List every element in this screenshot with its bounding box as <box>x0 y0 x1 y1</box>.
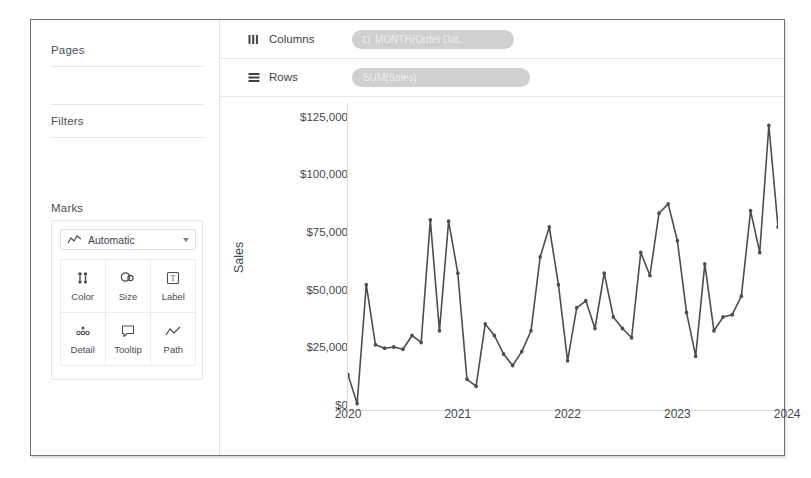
marks-tooltip-label: Tooltip <box>114 344 141 355</box>
x-axis-tick-label: 2020 <box>335 407 362 421</box>
marks-label-label: Label <box>162 291 185 302</box>
sidebar: Pages Filters Marks Automatic <box>31 20 219 455</box>
marks-card: Automatic Color <box>51 220 203 380</box>
y-axis-tick-label: $125,000 <box>256 111 348 123</box>
rows-pill-label: SUM(Sales) <box>363 72 417 83</box>
marks-size-button[interactable]: Size <box>105 259 151 313</box>
y-axis-tick-label: $50,000 <box>256 284 348 296</box>
color-icon <box>75 269 91 287</box>
chevron-down-icon[interactable] <box>183 238 189 242</box>
line-chart-icon <box>67 231 82 249</box>
mark-type-dropdown[interactable]: Automatic <box>60 229 196 250</box>
filters-shelf-label: Filters <box>51 115 203 127</box>
svg-text:T: T <box>171 274 176 283</box>
size-icon <box>119 269 137 287</box>
visualization-pane: Sales $0$25,000$50,000$75,000$100,000$12… <box>220 97 784 455</box>
marks-buttons: Color Size T <box>60 259 196 365</box>
pages-divider <box>51 66 203 67</box>
filters-divider <box>51 137 203 138</box>
mark-type-value: Automatic <box>88 234 177 246</box>
marks-color-button[interactable]: Color <box>60 259 106 313</box>
columns-pill-label: MONTH(Order Dat.. <box>375 34 464 45</box>
columns-shelf[interactable]: Columns MONTH(Order Dat.. <box>220 20 784 58</box>
calendar-icon <box>363 36 370 43</box>
line-series-svg <box>348 107 778 407</box>
y-axis-tick-label: $75,000 <box>256 226 348 238</box>
line-chart-plot <box>348 107 778 407</box>
marks-detail-button[interactable]: Detail <box>60 312 106 366</box>
marks-detail-label: Detail <box>71 344 95 355</box>
pages-bottom-divider <box>51 104 203 105</box>
marks-color-label: Color <box>71 291 94 302</box>
x-axis-tick-label: 2023 <box>664 407 691 421</box>
marks-path-label: Path <box>164 344 184 355</box>
rows-icon <box>247 72 261 83</box>
tableau-worksheet-frame: Pages Filters Marks Automatic <box>30 19 785 456</box>
rows-pill[interactable]: SUM(Sales) <box>352 68 530 87</box>
marks-card-label: Marks <box>51 202 203 214</box>
label-icon: T <box>165 269 181 287</box>
y-axis-tick-label: $100,000 <box>256 168 348 180</box>
columns-icon <box>247 34 261 45</box>
rows-shelf[interactable]: Rows SUM(Sales) <box>220 58 784 96</box>
columns-pill[interactable]: MONTH(Order Dat.. <box>352 30 514 49</box>
x-axis-tick-label: 2024 <box>774 407 801 421</box>
x-axis-tick-label: 2021 <box>444 407 471 421</box>
marks-size-label: Size <box>119 291 137 302</box>
x-axis-tick-label: 2022 <box>554 407 581 421</box>
x-axis-ticks: 20202021202220232024 <box>348 407 778 429</box>
marks-tooltip-button[interactable]: Tooltip <box>105 312 151 366</box>
path-icon <box>165 322 182 340</box>
columns-label: Columns <box>269 33 347 45</box>
rows-label: Rows <box>269 71 347 83</box>
marks-path-button[interactable]: Path <box>150 312 196 366</box>
marks-label-button[interactable]: T Label <box>150 259 196 313</box>
y-axis-tick-label: $25,000 <box>256 341 348 353</box>
tooltip-icon <box>120 322 136 340</box>
detail-icon <box>74 322 92 340</box>
y-axis-ticks: $0$25,000$50,000$75,000$100,000$125,000 <box>238 97 348 455</box>
pages-shelf-label: Pages <box>51 44 203 56</box>
